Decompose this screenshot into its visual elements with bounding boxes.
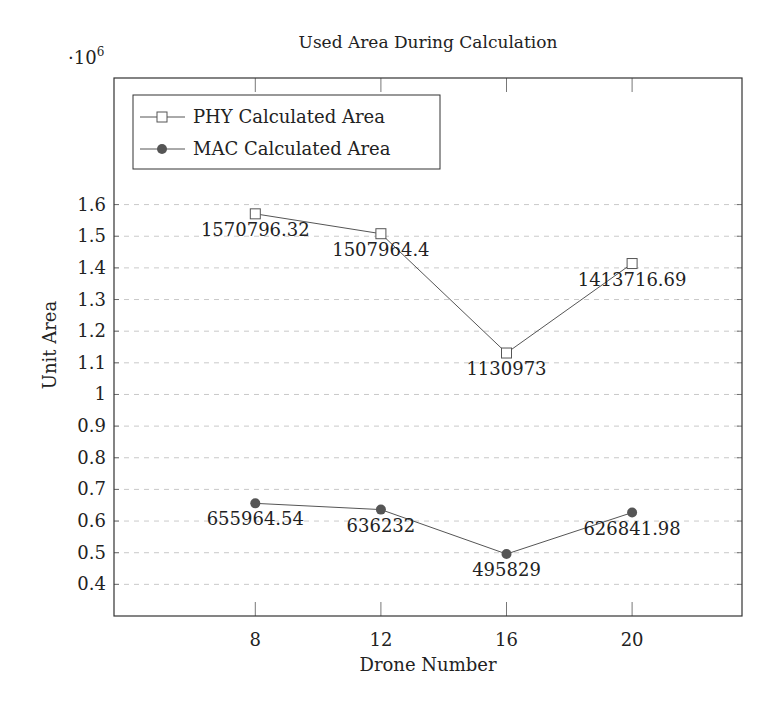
y-tick-label: 1.3	[77, 289, 106, 310]
filled-circle-marker-icon	[250, 498, 260, 508]
x-tick-label: 8	[250, 629, 261, 650]
x-axis-label: Drone Number	[359, 654, 496, 675]
y-tick-label: 1.6	[77, 194, 106, 215]
y-tick-label: 1.2	[77, 320, 106, 341]
legend-label-phy: PHY Calculated Area	[193, 106, 385, 127]
data-point-label: 1507964.4	[332, 239, 429, 260]
y-tick-label: 1	[95, 383, 106, 404]
y-tick-label: 0.8	[77, 447, 106, 468]
open-square-marker-icon	[627, 259, 637, 269]
legend-label-mac: MAC Calculated Area	[193, 138, 391, 159]
data-point-label: 1570796.32	[201, 219, 310, 240]
open-square-marker-icon	[250, 209, 260, 219]
filled-circle-marker-icon	[157, 144, 167, 154]
y-tick-label: 1.4	[77, 257, 106, 278]
series-line	[255, 214, 632, 353]
chart-title: Used Area During Calculation	[299, 32, 558, 52]
y-tick-label: 0.9	[77, 415, 106, 436]
data-point-label: 1413716.69	[578, 269, 687, 290]
filled-circle-marker-icon	[627, 508, 637, 518]
y-tick-label: 0.7	[77, 478, 106, 499]
x-tick-label: 12	[369, 629, 392, 650]
y-tick-label: 0.4	[77, 573, 106, 594]
filled-circle-marker-icon	[376, 505, 386, 515]
data-point-label: 626841.98	[583, 518, 680, 539]
legend: PHY Calculated Area MAC Calculated Area	[133, 95, 440, 169]
series-line	[255, 503, 632, 554]
line-chart: 0.40.50.60.70.80.911.11.21.31.41.51.6812…	[0, 0, 783, 709]
data-point-label: 495829	[472, 559, 541, 580]
x-tick-label: 20	[621, 629, 644, 650]
data-point-label: 1130973	[466, 358, 546, 379]
y-axis-label: Unit Area	[39, 301, 60, 390]
data-point-label: 636232	[347, 515, 416, 536]
x-tick-label: 16	[495, 629, 518, 650]
y-scale-base: ·10	[68, 47, 97, 68]
series-layer	[250, 209, 637, 559]
y-tick-label: 0.6	[77, 510, 106, 531]
y-tick-label: 0.5	[77, 542, 106, 563]
y-scale-factor: ·106	[68, 45, 104, 68]
filled-circle-marker-icon	[502, 549, 512, 559]
open-square-marker-icon	[376, 229, 386, 239]
y-scale-exponent: 6	[97, 45, 105, 59]
data-point-label: 655964.54	[207, 508, 304, 529]
data-labels: 1570796.321507964.411309731413716.696559…	[201, 219, 687, 580]
y-tick-label: 1.1	[77, 352, 106, 373]
open-square-marker-icon	[157, 112, 167, 122]
open-square-marker-icon	[502, 348, 512, 358]
y-tick-label: 1.5	[77, 225, 106, 246]
